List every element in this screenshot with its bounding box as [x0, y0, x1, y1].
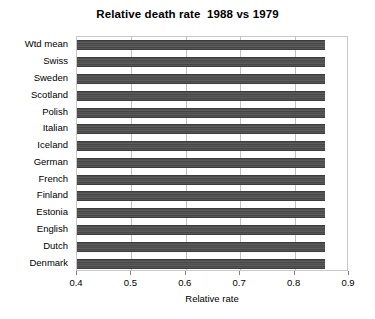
bar-row [77, 87, 347, 104]
bar-english [77, 225, 325, 235]
x-tick-label-0.6: 0.6 [165, 277, 205, 288]
bar-dutch [77, 242, 325, 252]
y-axis-label-polish: Polish [0, 107, 68, 117]
bar-german [77, 158, 325, 168]
x-tick-label-0.8: 0.8 [274, 277, 314, 288]
bar-row [77, 238, 347, 255]
bar-italian [77, 124, 325, 134]
bar-row [77, 37, 347, 54]
bar-row [77, 54, 347, 71]
y-axis-category-labels: Wtd meanSwissSwedenScotlandPolishItalian… [0, 36, 72, 271]
x-tick-mark-0.4 [76, 271, 77, 275]
bar-iceland [77, 141, 325, 151]
bar-row [77, 255, 347, 272]
bar-series [77, 37, 347, 270]
x-tick-mark-0.6 [185, 271, 186, 275]
x-tick-mark-0.5 [130, 271, 131, 275]
y-axis-label-french: French [0, 174, 68, 184]
bar-estonia [77, 208, 325, 218]
bar-row [77, 222, 347, 239]
x-tick-label-0.4: 0.4 [56, 277, 96, 288]
bar-sweden [77, 74, 325, 84]
x-tick-label-0.9: 0.9 [328, 277, 368, 288]
bar-row [77, 71, 347, 88]
x-tick-mark-0.8 [294, 271, 295, 275]
y-axis-label-estonia: Estonia [0, 207, 68, 217]
bar-row [77, 155, 347, 172]
bar-row [77, 171, 347, 188]
y-axis-label-scotland: Scotland [0, 90, 68, 100]
y-axis-label-german: German [0, 157, 68, 167]
bar-row [77, 121, 347, 138]
x-axis: Relative rate 0.40.50.60.70.80.9 [0, 271, 375, 319]
bar-row [77, 104, 347, 121]
x-tick-label-0.7: 0.7 [219, 277, 259, 288]
y-axis-label-denmark: Denmark [0, 258, 68, 268]
x-axis-title: Relative rate [76, 293, 348, 304]
bar-polish [77, 108, 325, 118]
y-axis-label-sweden: Sweden [0, 73, 68, 83]
y-axis-label-english: English [0, 224, 68, 234]
chart-container: Relative death rate 1988 vs 1979 Wtd mea… [0, 0, 375, 319]
y-axis-label-finland: Finland [0, 190, 68, 200]
x-tick-mark-0.9 [348, 271, 349, 275]
y-axis-label-dutch: Dutch [0, 241, 68, 251]
bar-wtd-mean [77, 40, 325, 50]
y-axis-label-iceland: Iceland [0, 140, 68, 150]
bar-finland [77, 191, 325, 201]
chart-title: Relative death rate 1988 vs 1979 [0, 8, 375, 20]
bar-row [77, 138, 347, 155]
plot-area [76, 36, 348, 271]
bar-row [77, 205, 347, 222]
bar-french [77, 175, 325, 185]
bar-denmark [77, 259, 325, 269]
bar-row [77, 188, 347, 205]
x-tick-mark-0.7 [239, 271, 240, 275]
y-axis-label-swiss: Swiss [0, 56, 68, 66]
y-axis-label-italian: Italian [0, 123, 68, 133]
y-axis-label-wtd-mean: Wtd mean [0, 39, 68, 49]
bar-swiss [77, 57, 325, 67]
bar-scotland [77, 91, 325, 101]
x-tick-label-0.5: 0.5 [110, 277, 150, 288]
